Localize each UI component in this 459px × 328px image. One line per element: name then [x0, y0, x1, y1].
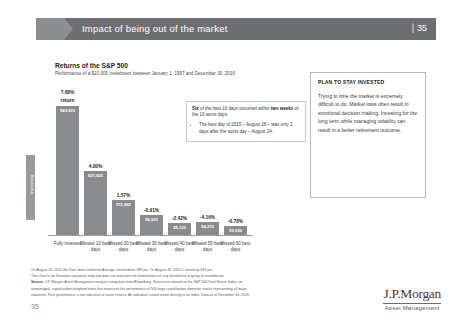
chart-subtitle: Performance of a $10,000 investment betw…: [55, 71, 235, 76]
bar-value-label: $5,132: [168, 225, 191, 230]
callout-lead: Six: [192, 106, 199, 111]
jpmorgan-logo: J.P.Morgan Asset Management: [383, 286, 441, 311]
chart-axis-line: [48, 235, 253, 236]
header-slide-number: |35: [412, 23, 427, 33]
bar-percent-label: -0.91%: [134, 208, 169, 213]
logo-wordmark: J.P.Morgan: [383, 286, 441, 302]
plan-panel: PLAN TO STAY INVESTED Trying to time the…: [310, 72, 426, 198]
bar-value-label: $43,933: [56, 108, 79, 113]
bar-value-label: $21,925: [84, 173, 107, 178]
footnote-source: Source: J.P. Morgan Asset Management ana…: [31, 280, 331, 285]
bar-value-label: $11,962: [112, 202, 135, 207]
footnote-line-4: unmanaged, capitalization-weighted index…: [31, 287, 331, 292]
bar-percent-label: 4.00%: [78, 164, 113, 169]
bar-percent-label: -6.78%: [218, 219, 253, 224]
callout-list: The best day of 2015 – August 26 – was o…: [192, 122, 300, 134]
footnote-line-5: industries. Past performance is not indi…: [31, 293, 331, 298]
page-title: Impact of being out of the market: [82, 23, 227, 34]
bar-return-note: return: [50, 98, 85, 103]
page-number: 35: [31, 303, 39, 310]
bar-percent-label: 7.68%: [50, 90, 85, 95]
section-tab-label: Investing: [29, 161, 34, 209]
bar: $3,030: [224, 226, 247, 235]
bar: $43,933: [56, 106, 79, 235]
bar: $5,132: [168, 223, 191, 235]
logo-rule: [383, 303, 441, 304]
bar-column: -2.42%$5,132: [168, 223, 191, 235]
bar-category-label: Missed 60 best days: [215, 241, 256, 253]
footnote-line-3: J.P. Morgan Asset Management analysis us…: [44, 280, 242, 284]
bar: $4,275: [196, 222, 219, 235]
chart-title: Returns of the S&P 500: [55, 62, 128, 69]
header-number-value: 35: [417, 23, 427, 33]
plan-panel-body: Trying to time the market is extremely d…: [318, 92, 418, 134]
slide-page: Impact of being out of the market |35 In…: [0, 0, 459, 328]
callout-text: Six of the best 10 days occurred within …: [192, 106, 300, 118]
callout-bold2: two weeks: [271, 106, 294, 111]
footnotes: On August 24, 2015 the Dow Jones Industr…: [31, 268, 331, 299]
bar-column: -4.16%$4,275: [196, 222, 219, 235]
logo-tagline: Asset Management: [383, 305, 441, 311]
bar-value-label: $3,030: [224, 228, 247, 233]
bar: $21,925: [84, 171, 107, 235]
bar: $6,923: [140, 215, 163, 235]
callout-box: Six of the best 10 days occurred within …: [186, 101, 306, 142]
footnote-source-label: Source:: [31, 280, 44, 284]
bar-column: -0.91%$6,923: [140, 215, 163, 235]
footnote-line-1: On August 24, 2015 the Dow Jones Industr…: [31, 268, 331, 273]
bar-column: 4.00%$21,925: [84, 171, 107, 235]
bar-value-label: $4,275: [196, 224, 219, 229]
bar-column: -6.78%$3,030: [224, 226, 247, 235]
bar-percent-label: 1.57%: [106, 193, 141, 198]
section-tab-investing: Investing: [26, 155, 35, 220]
bar: $11,962: [112, 200, 135, 235]
bar-column: 1.57%$11,962: [112, 200, 135, 235]
bar-value-label: $6,923: [140, 217, 163, 222]
slide-header: Impact of being out of the market |35: [36, 18, 436, 40]
bar-column: 7.68%return$43,933: [56, 106, 79, 235]
header-tab-block: [36, 18, 64, 40]
header-arrow-icon: [64, 18, 73, 40]
callout-bullet: The best day of 2015 – August 26 – was o…: [199, 122, 300, 134]
header-separator: |: [412, 23, 414, 33]
plan-panel-heading: PLAN TO STAY INVESTED: [318, 79, 418, 85]
footnote-line-2: This chart is for illustrative purposes …: [31, 274, 331, 279]
callout-text1: of the best 10 days occurred within: [199, 106, 271, 111]
